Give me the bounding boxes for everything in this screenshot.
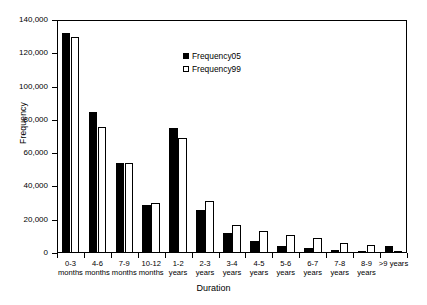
x-axis-tick <box>380 253 381 258</box>
bar-frequency99 <box>98 127 107 253</box>
bar-group <box>272 20 299 253</box>
bar-frequency99 <box>178 138 187 253</box>
bar-frequency99 <box>313 238 322 253</box>
bar-frequency05 <box>277 246 286 253</box>
bar-frequency99 <box>125 163 134 253</box>
y-axis-label: 0 <box>0 249 48 257</box>
bar-frequency05 <box>385 246 394 253</box>
bar-group <box>245 20 272 253</box>
bar-group <box>84 20 111 253</box>
bar-frequency99 <box>151 203 160 253</box>
bar-frequency99 <box>205 201 214 253</box>
x-axis-tick <box>272 253 273 258</box>
legend-label: Frequency99 <box>192 65 241 74</box>
y-axis-label: 60,000 <box>0 149 48 157</box>
bar-frequency05 <box>62 33 71 253</box>
x-axis-tick <box>192 253 193 258</box>
legend-swatch-icon <box>183 66 189 72</box>
legend-swatch-icon <box>183 53 189 59</box>
bar-frequency05 <box>89 112 98 253</box>
y-axis-label: 120,000 <box>0 49 48 57</box>
bar-group <box>111 20 138 253</box>
x-axis-tick <box>326 253 327 258</box>
bar-group <box>57 20 84 253</box>
x-axis-tick <box>84 253 85 258</box>
bar-frequency05 <box>331 250 340 253</box>
x-axis-label: >9 years <box>371 259 417 268</box>
bar-frequency05 <box>116 163 125 253</box>
y-axis-label: 80,000 <box>0 116 48 124</box>
bar-group <box>380 20 407 253</box>
bar-frequency05 <box>196 210 205 253</box>
x-axis-tick <box>57 253 58 258</box>
bar-frequency05 <box>250 241 259 253</box>
x-axis-tick <box>407 253 408 258</box>
bar-frequency05 <box>142 205 151 253</box>
x-axis-tick <box>299 253 300 258</box>
x-axis-tick <box>165 253 166 258</box>
bar-frequency05 <box>223 233 232 253</box>
bar-group <box>326 20 353 253</box>
bar-frequency99 <box>394 251 403 253</box>
y-axis-label: 140,000 <box>0 16 48 24</box>
x-axis-tick <box>138 253 139 258</box>
bar-group <box>138 20 165 253</box>
bar-frequency99 <box>259 231 268 253</box>
chart-legend: Frequency05Frequency99 <box>183 50 241 76</box>
bar-frequency99 <box>71 37 80 253</box>
bar-frequency05 <box>358 251 367 253</box>
bar-group <box>353 20 380 253</box>
bar-frequency99 <box>340 243 349 253</box>
bar-chart: Frequency 020,00040,00060,00080,000100,0… <box>0 0 427 305</box>
x-axis-tick <box>111 253 112 258</box>
y-axis-label: 100,000 <box>0 83 48 91</box>
x-axis-tick <box>219 253 220 258</box>
y-axis-label: 40,000 <box>0 182 48 190</box>
x-axis-title: Duration <box>0 283 427 293</box>
legend-item: Frequency99 <box>183 63 241 75</box>
bar-frequency99 <box>232 225 241 253</box>
x-axis-tick <box>245 253 246 258</box>
legend-label: Frequency05 <box>192 52 241 61</box>
bar-frequency99 <box>367 245 376 253</box>
legend-item: Frequency05 <box>183 50 241 62</box>
bar-frequency05 <box>169 128 178 253</box>
bar-frequency99 <box>286 235 295 253</box>
x-axis-tick <box>353 253 354 258</box>
bar-frequency05 <box>304 248 313 253</box>
bar-group <box>299 20 326 253</box>
y-axis-label: 20,000 <box>0 216 48 224</box>
